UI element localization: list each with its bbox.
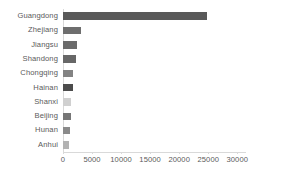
category-label: Shandong [0, 52, 58, 66]
x-tick-mark [237, 152, 238, 154]
category-row: Zhejiang [0, 23, 283, 37]
category-label: Zhejiang [0, 23, 58, 37]
bar [63, 55, 76, 63]
category-row: Hainan [0, 81, 283, 95]
x-tick-label: 15000 [139, 155, 161, 164]
category-label: Guangdong [0, 9, 58, 23]
x-tick-label: 0 [61, 155, 65, 164]
bar [63, 127, 70, 135]
bar [63, 84, 73, 92]
bar [63, 113, 71, 121]
bar [63, 98, 71, 106]
category-label: Jiangsu [0, 38, 58, 52]
category-row: Hunan [0, 123, 283, 137]
category-label: Beijing [0, 109, 58, 123]
x-tick-mark [208, 152, 209, 154]
x-tick-mark [63, 152, 64, 154]
bar [63, 41, 77, 49]
category-row: Chongqing [0, 66, 283, 80]
x-tick-mark [121, 152, 122, 154]
x-tick-label: 30000 [226, 155, 248, 164]
category-row: Jiangsu [0, 38, 283, 52]
x-tick-label: 10000 [110, 155, 132, 164]
bar [63, 27, 81, 35]
category-row: Shandong [0, 52, 283, 66]
x-tick-mark [150, 152, 151, 154]
bar [63, 70, 73, 78]
category-row: Beijing [0, 109, 283, 123]
category-label: Anhui [0, 138, 58, 152]
bar [63, 141, 69, 149]
bar [63, 12, 207, 20]
category-row: Anhui [0, 138, 283, 152]
category-label: Hainan [0, 81, 58, 95]
bar-chart: GuangdongZhejiangJiangsuShandongChongqin… [0, 0, 283, 175]
x-tick-mark [92, 152, 93, 154]
x-tick-label: 25000 [197, 155, 219, 164]
x-tick-label: 20000 [168, 155, 190, 164]
category-row: Shanxi [0, 95, 283, 109]
category-label: Chongqing [0, 66, 58, 80]
x-tick-mark [179, 152, 180, 154]
x-tick-label: 5000 [83, 155, 100, 164]
category-label: Hunan [0, 123, 58, 137]
category-label: Shanxi [0, 95, 58, 109]
x-axis-line [63, 152, 246, 153]
